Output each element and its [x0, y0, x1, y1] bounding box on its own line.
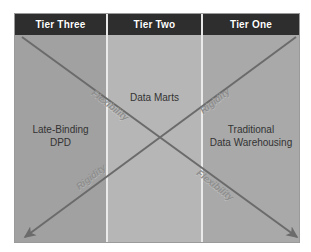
tier-header-tier-one-label: Tier One — [230, 19, 272, 30]
panel-row: Late-Binding DPD Data Marts Traditional … — [15, 35, 299, 243]
panel-tier-one: Traditional Data Warehousing — [203, 35, 299, 243]
tier-header-tier-two-label: Tier Two — [134, 19, 176, 30]
panel-tier-three: Late-Binding DPD — [15, 35, 108, 243]
panel-tier-one-label: Traditional Data Warehousing — [203, 123, 299, 149]
figure-frame: Tier Three Tier Two Tier One Late-Bindin… — [14, 13, 300, 243]
panel-tier-two-line1: Data Marts — [108, 91, 201, 104]
tier-header-tier-three-label: Tier Three — [35, 19, 85, 30]
tier-header-tier-three: Tier Three — [15, 14, 108, 35]
panel-tier-three-label: Late-Binding DPD — [15, 123, 106, 149]
panel-tier-three-line1: Late-Binding — [15, 123, 106, 136]
panel-tier-two-label: Data Marts — [108, 91, 201, 104]
tier-header-tier-two: Tier Two — [108, 14, 203, 35]
tier-header-tier-one: Tier One — [203, 14, 299, 35]
panel-tier-one-line2: Data Warehousing — [203, 136, 299, 149]
panel-tier-two: Data Marts — [108, 35, 203, 243]
panel-tier-three-line2: DPD — [15, 136, 106, 149]
panel-tier-one-line1: Traditional — [203, 123, 299, 136]
tier-header-row: Tier Three Tier Two Tier One — [15, 14, 299, 35]
diagram-root: Tier Three Tier Two Tier One Late-Bindin… — [0, 0, 311, 252]
